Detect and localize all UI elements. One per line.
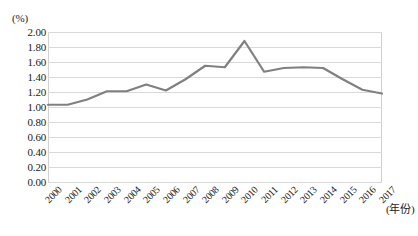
y-axis-tick-label: 1.60 (2, 56, 46, 68)
y-axis-tick-label: 0.80 (2, 116, 46, 128)
line-chart: (%) 2.001.801.601.401.201.000.800.600.40… (0, 0, 418, 236)
y-axis-tick-label: 2.00 (2, 26, 46, 38)
series-line (48, 32, 382, 182)
y-axis-tick-label: 1.20 (2, 86, 46, 98)
x-axis-tick-label: 2012 (278, 184, 299, 205)
x-axis-tick-label: 2015 (337, 184, 358, 205)
x-axis-tick-label: 2011 (259, 184, 280, 205)
x-axis-tick-label: 2009 (220, 184, 241, 205)
y-axis-tick-label: 1.80 (2, 41, 46, 53)
x-axis-tick-label: 2010 (239, 184, 260, 205)
x-axis-tick-label: 2001 (62, 184, 83, 205)
y-axis-tick-label: 0.40 (2, 146, 46, 158)
y-axis-tick-label: 0.60 (2, 131, 46, 143)
x-axis-tick-label: 2004 (121, 184, 142, 205)
y-axis-tick-label: 0.00 (2, 176, 46, 188)
x-axis-tick-label: 2006 (161, 184, 182, 205)
x-axis-title: (年份) (386, 200, 415, 216)
x-axis-tick-labels: 2000200120022003200420052006200720082009… (48, 184, 382, 228)
y-axis-tick-labels: 2.001.801.601.401.201.000.800.600.400.20… (0, 0, 46, 236)
x-axis-tick-label: 2014 (318, 184, 339, 205)
x-axis-tick-label: 2016 (357, 184, 378, 205)
x-axis-tick-label: 2005 (141, 184, 162, 205)
x-axis-tick-label: 2008 (200, 184, 221, 205)
x-axis-tick-label: 2007 (180, 184, 201, 205)
gridline (48, 182, 382, 183)
x-axis-tick-label: 2002 (82, 184, 103, 205)
x-axis-tick-label: 2013 (298, 184, 319, 205)
y-axis-tick-label: 1.40 (2, 71, 46, 83)
plot-area (48, 32, 382, 182)
x-axis-tick-label: 2003 (102, 184, 123, 205)
y-axis-tick-label: 1.00 (2, 101, 46, 113)
y-axis-tick-label: 0.20 (2, 161, 46, 173)
